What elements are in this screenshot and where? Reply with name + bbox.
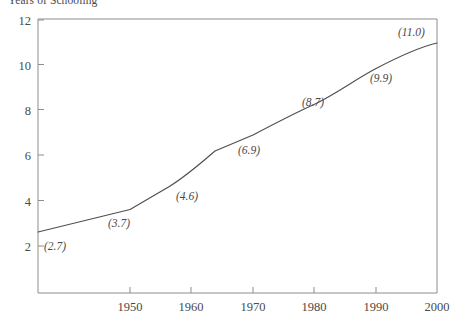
y-axis-label-6: 6 <box>25 149 31 163</box>
chart-page: Years of Schooling 12 10 8 6 4 2 1950 19… <box>0 0 457 327</box>
x-axis-label-1960: 1960 <box>179 300 204 314</box>
point-label-6-9: (6.9) <box>238 144 260 157</box>
y-axis-label-4: 4 <box>25 195 32 209</box>
y-axis-label-10: 10 <box>19 59 32 73</box>
y-axis-label-2: 2 <box>25 240 31 254</box>
point-label-8-7: (8.7) <box>302 96 324 109</box>
x-axis-label-1970: 1970 <box>241 300 266 314</box>
point-label-2-7: (2.7) <box>44 240 66 253</box>
x-axis-label-1990: 1990 <box>364 300 389 314</box>
x-axis-label-1950: 1950 <box>118 300 143 314</box>
point-label-4-6: (4.6) <box>176 190 198 203</box>
line-chart-plot: 12 10 8 6 4 2 1950 1960 1970 1980 1990 2… <box>0 0 457 327</box>
point-label-11-0: (11.0) <box>398 26 425 39</box>
y-axis-label-8: 8 <box>25 104 31 118</box>
x-axis-label-2000: 2000 <box>425 300 450 314</box>
plot-frame <box>38 19 437 293</box>
point-label-3-7: (3.7) <box>108 217 130 230</box>
x-axis-label-1980: 1980 <box>302 300 327 314</box>
point-label-9-9: (9.9) <box>370 72 392 85</box>
y-axis-label-12: 12 <box>19 14 32 28</box>
